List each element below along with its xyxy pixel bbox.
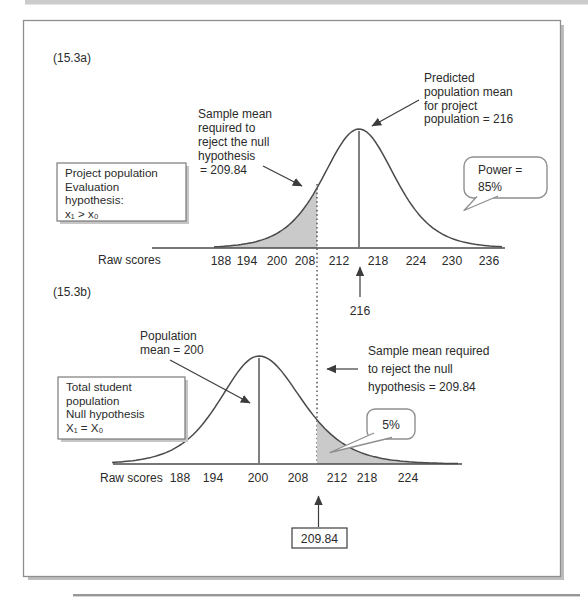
power-bubble-line2: 85% <box>478 180 502 194</box>
axis-tick-a-200: 200 <box>267 254 288 268</box>
axis-tick-b-218: 218 <box>357 471 378 485</box>
axis-tick-b-208: 208 <box>288 471 309 485</box>
axis-tick-b-188: 188 <box>170 471 191 485</box>
mean-value-callout-a: 216 <box>350 304 371 318</box>
hypothesis-box-b-line1: Total student <box>66 380 133 393</box>
hypothesis-box-b-line4: X₁ = X₀ <box>66 421 104 434</box>
critical-label-a-line4: hypothesis <box>198 149 255 163</box>
predicted-mean-line3: for project <box>424 99 478 113</box>
critical-value-box-label: 209.84 <box>301 532 338 546</box>
critical-label-b-line1: Sample mean required <box>368 344 489 358</box>
raw-scores-label-b: Raw scores <box>100 471 163 485</box>
predicted-mean-line4: population = 216 <box>424 112 513 126</box>
statistical-power-diagram: (15.3a) (15.3b) Project population Evalu… <box>0 0 588 603</box>
panel-a-tag: (15.3a) <box>53 51 91 65</box>
axis-tick-a-218: 218 <box>368 254 389 268</box>
axis-tick-b-200: 200 <box>248 471 269 485</box>
figure-frame <box>24 21 561 577</box>
axis-tick-a-188: 188 <box>211 254 232 268</box>
population-mean-line2: mean = 200 <box>140 343 204 357</box>
population-mean-line1: Population <box>140 329 197 343</box>
critical-label-b-line3: hypothesis = 209.84 <box>368 380 476 394</box>
page-bottom-rule <box>73 594 580 596</box>
critical-label-a-line5: = 209.84 <box>200 163 247 177</box>
power-bubble-line1: Power = <box>478 163 522 177</box>
axis-tick-a-224: 224 <box>406 254 427 268</box>
hypothesis-box-a-line3: hypothesis: <box>65 193 124 206</box>
hypothesis-box-a-line4: x₁ > x₀ <box>65 207 99 220</box>
critical-label-a-line2: required to <box>198 121 256 135</box>
page-top-rule <box>25 0 588 5</box>
axis-tick-a-236: 236 <box>479 254 500 268</box>
predicted-mean-line2: population mean <box>424 85 513 99</box>
hypothesis-box-a-line2: Evaluation <box>65 180 119 193</box>
panel-b-tag: (15.3b) <box>53 285 91 299</box>
axis-tick-a-212: 212 <box>329 254 350 268</box>
hypothesis-box-a-line1: Project population <box>65 166 158 179</box>
axis-tick-a-208: 208 <box>295 254 316 268</box>
critical-label-a-line3: reject the null <box>198 135 269 149</box>
alpha-bubble-label: 5% <box>382 418 400 432</box>
critical-label-a-line1: Sample mean <box>198 107 272 121</box>
raw-scores-label-a: Raw scores <box>98 253 161 267</box>
axis-tick-b-194: 194 <box>203 471 224 485</box>
figure-page: (15.3a) (15.3b) Project population Evalu… <box>0 0 588 603</box>
axis-tick-b-224: 224 <box>398 471 419 485</box>
axis-tick-a-230: 230 <box>442 254 463 268</box>
predicted-mean-line1: Predicted <box>424 71 475 85</box>
hypothesis-box-b-line3: Null hypothesis <box>66 407 145 420</box>
axis-tick-b-212: 212 <box>327 471 348 485</box>
axis-tick-a-194: 194 <box>237 254 258 268</box>
critical-label-b-line2: to reject the null <box>368 362 453 376</box>
hypothesis-box-b-line2: population <box>66 394 120 407</box>
